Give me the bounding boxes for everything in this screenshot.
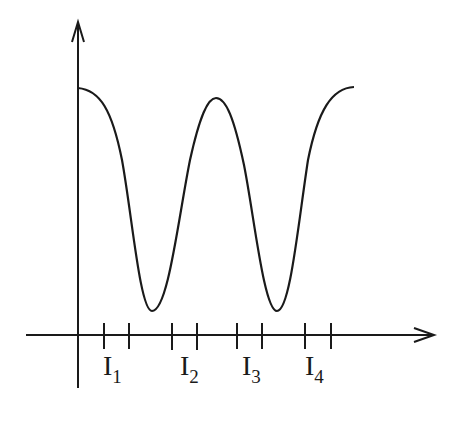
interval-label-2: I2 — [180, 352, 199, 386]
interval-label-4: I4 — [305, 352, 324, 386]
interval-label-1: I1 — [103, 352, 122, 386]
x-axis-ticks — [104, 323, 331, 350]
diagram-canvas — [0, 0, 458, 422]
interval-label-3: I3 — [242, 352, 261, 386]
intensity-curve — [78, 87, 354, 311]
